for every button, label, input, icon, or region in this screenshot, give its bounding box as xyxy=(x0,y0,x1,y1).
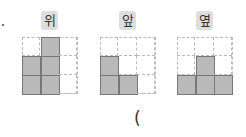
grid-side xyxy=(177,37,233,94)
view-label-top: 위 xyxy=(41,11,58,30)
empty-cell xyxy=(59,56,77,75)
filled-cell xyxy=(119,75,138,95)
empty-cell xyxy=(137,56,155,75)
empty-cell xyxy=(177,37,195,56)
empty-cell xyxy=(214,37,232,56)
filled-cell xyxy=(41,75,60,95)
grid-front xyxy=(100,37,156,94)
empty-cell xyxy=(137,75,155,94)
filled-cell xyxy=(41,56,60,76)
view-label-side: 옆 xyxy=(196,11,213,30)
filled-cell xyxy=(196,75,215,95)
grid-top xyxy=(22,37,78,94)
view-label-front: 앞 xyxy=(119,11,136,30)
empty-cell xyxy=(214,56,232,75)
empty-cell xyxy=(100,37,118,56)
empty-cell xyxy=(196,37,214,56)
filled-cell xyxy=(100,75,119,95)
empty-cell xyxy=(177,56,195,75)
filled-cell xyxy=(41,37,60,57)
filled-cell xyxy=(214,75,233,95)
filled-cell xyxy=(100,56,119,76)
answer-paren: ( xyxy=(134,108,141,128)
empty-cell xyxy=(22,37,40,56)
filled-cell xyxy=(196,56,215,76)
empty-cell xyxy=(137,37,155,56)
empty-cell xyxy=(119,37,137,56)
empty-cell xyxy=(119,56,137,75)
empty-cell xyxy=(59,75,77,94)
empty-cell xyxy=(59,37,77,56)
filled-cell xyxy=(177,75,196,95)
bullet-dot xyxy=(2,24,4,26)
filled-cell xyxy=(22,56,41,76)
filled-cell xyxy=(22,75,41,95)
